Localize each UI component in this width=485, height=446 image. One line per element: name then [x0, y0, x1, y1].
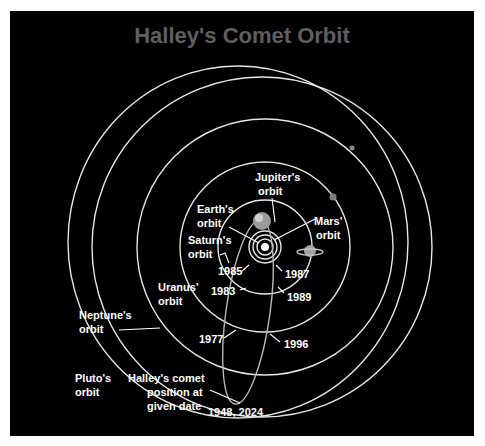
saturn-leader [220, 253, 229, 263]
date-1977: 1977 [199, 333, 223, 345]
d1996-leader [270, 334, 280, 342]
saturn-label: Saturn'sorbit [188, 234, 232, 260]
comet-label: Halley's cometposition atgiven date [128, 372, 205, 412]
d1987-leader [276, 265, 282, 271]
pluto-label: Pluto'sorbit [75, 372, 111, 398]
neptune-leader [119, 328, 160, 330]
sun-icon [261, 243, 269, 251]
d1977-leader [224, 330, 236, 338]
comet-leader [210, 390, 240, 403]
pluto-orbit [68, 66, 408, 418]
date-1989: 1989 [287, 291, 311, 303]
date-1948-2024: 1948, 2024 [208, 406, 264, 418]
jupiter-highlight [255, 214, 263, 222]
date-1996: 1996 [284, 338, 308, 350]
date-1985: 1985 [218, 265, 242, 277]
uranus-planet-icon [330, 194, 337, 201]
neptune-planet-icon [350, 146, 355, 151]
uranus-label: Uranus'orbit [158, 281, 199, 307]
orbit-diagram: Jupiter'sorbit Earth'sorbit Mars'orbit S… [0, 0, 485, 446]
mars-label: Mars'orbit [314, 215, 343, 241]
date-1987: 1987 [285, 268, 309, 280]
date-1983: 1983 [211, 285, 235, 297]
earth-label: Earth'sorbit [197, 203, 234, 229]
saturn-planet-icon [297, 245, 323, 257]
jupiter-planet-icon [253, 212, 271, 230]
jupiter-label: Jupiter'sorbit [255, 171, 300, 197]
d1985-leader [242, 265, 249, 271]
